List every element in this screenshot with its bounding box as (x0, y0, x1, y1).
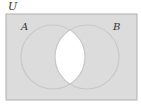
set-a-label: A (20, 21, 28, 32)
set-b-label: B (112, 21, 120, 32)
venn-diagram: A B (0, 0, 141, 104)
